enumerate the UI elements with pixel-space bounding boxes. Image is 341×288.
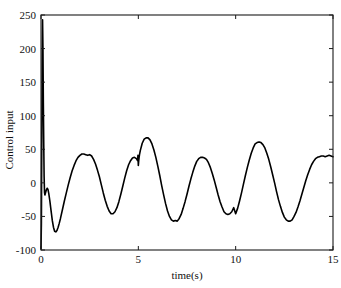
- y-axis-label: Control input: [3, 111, 15, 170]
- plot-background: [41, 15, 333, 250]
- x-axis-label: time(s): [171, 269, 202, 282]
- y-tick-label: 200: [20, 43, 37, 55]
- control-input-plot: 051015 -100-50050100150200250 time(s) Co…: [0, 0, 341, 288]
- y-tick-label: 250: [20, 9, 37, 21]
- y-tick-label: 150: [20, 76, 37, 88]
- y-axis-tick-labels: -100-50050100150200250: [16, 9, 37, 256]
- x-tick-label: 15: [328, 253, 340, 265]
- y-tick-label: 100: [20, 110, 37, 122]
- y-tick-label: 50: [25, 143, 37, 155]
- figure-canvas: 051015 -100-50050100150200250 time(s) Co…: [0, 0, 341, 288]
- x-tick-label: 0: [38, 253, 44, 265]
- x-tick-label: 5: [136, 253, 142, 265]
- y-tick-label: 0: [31, 177, 37, 189]
- x-axis-tick-labels: 051015: [38, 253, 339, 265]
- x-tick-label: 10: [230, 253, 242, 265]
- y-tick-label: -50: [21, 210, 36, 222]
- y-tick-label: -100: [16, 244, 37, 256]
